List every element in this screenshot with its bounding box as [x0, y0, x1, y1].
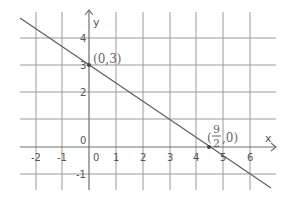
fraction-numerator: 9: [213, 123, 220, 136]
x-axis-label: x: [265, 132, 272, 145]
y-tick-labels: 4 3 2 0 -1: [76, 33, 86, 180]
x-tick: 3: [167, 152, 173, 163]
x-tick: 0: [93, 152, 99, 163]
x-tick: 2: [140, 152, 146, 163]
svg-text:,0): ,0): [222, 131, 238, 145]
x-tick: -1: [57, 152, 67, 163]
x-tick: 6: [247, 152, 253, 163]
y-tick: -1: [76, 169, 86, 180]
svg-text:(: (: [207, 131, 212, 145]
y-tick: 4: [80, 33, 86, 44]
point-x-intercept: [207, 145, 211, 149]
x-tick: 1: [113, 152, 119, 163]
y-tick: 2: [80, 87, 86, 98]
axes: [20, 10, 276, 190]
coordinate-plane: x y -2 -1 0 1 2 3 4 5 6 4 3 2 0 -1 (0,3)…: [0, 0, 287, 205]
x-tick: 4: [193, 152, 199, 163]
fraction-denominator: 2: [213, 137, 220, 150]
y-tick: 0: [80, 135, 86, 146]
y-axis-label: y: [93, 16, 100, 29]
x-tick: -2: [31, 152, 41, 163]
point-y-intercept: [87, 63, 91, 67]
y-intercept-label: (0,3): [93, 52, 121, 66]
